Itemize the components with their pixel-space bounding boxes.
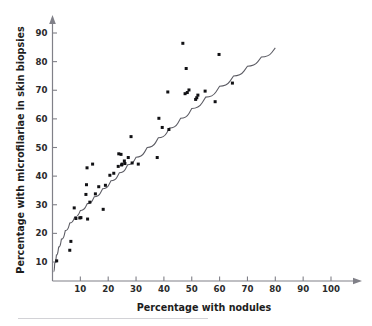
- x-axis-arrow-icon: [353, 278, 362, 285]
- data-point: [86, 166, 89, 169]
- data-point: [120, 153, 123, 156]
- data-point: [73, 206, 76, 209]
- data-point: [185, 67, 188, 70]
- y-tick-label: 50: [36, 143, 48, 153]
- x-tick-label: 40: [158, 284, 170, 294]
- data-point: [121, 163, 124, 166]
- data-point: [94, 192, 97, 195]
- x-tick-label: 30: [130, 284, 142, 294]
- data-point: [102, 208, 105, 211]
- x-tick-label: 50: [186, 284, 198, 294]
- data-point: [88, 201, 91, 204]
- axis-group: [49, 15, 362, 284]
- data-point: [218, 53, 221, 56]
- data-point: [196, 94, 199, 97]
- data-point: [161, 126, 164, 129]
- data-point: [104, 184, 107, 187]
- y-tick-label: 70: [36, 85, 48, 95]
- data-point: [55, 259, 58, 262]
- data-point: [117, 165, 120, 168]
- data-point: [137, 163, 140, 166]
- y-tick-label: 20: [36, 228, 48, 238]
- data-point: [131, 161, 134, 164]
- data-point: [231, 82, 234, 85]
- data-point: [79, 216, 82, 219]
- x-axis-title: Percentage with nodules: [137, 302, 272, 313]
- x-tick-label: 60: [214, 284, 226, 294]
- data-point: [130, 135, 133, 138]
- data-point: [123, 159, 126, 162]
- data-point: [187, 88, 190, 91]
- data-point: [84, 193, 87, 196]
- data-point: [69, 240, 72, 243]
- data-point: [112, 172, 115, 175]
- y-tick-label: 10: [36, 257, 48, 267]
- x-tick-label: 90: [297, 284, 309, 294]
- y-axis-arrow-icon: [49, 15, 56, 24]
- data-point: [181, 42, 184, 45]
- data-point: [195, 96, 198, 99]
- scatter-chart-figure: 102030405060708090100 102030405060708090…: [0, 0, 372, 326]
- data-point: [166, 90, 169, 93]
- data-point: [127, 156, 130, 159]
- data-point: [68, 249, 71, 252]
- data-point: [123, 162, 126, 165]
- x-tick-label: 10: [74, 284, 86, 294]
- data-point: [214, 100, 217, 103]
- data-point: [74, 217, 77, 220]
- data-point: [157, 117, 160, 120]
- y-tick-label: 80: [36, 57, 48, 67]
- y-tick-label: 60: [36, 114, 48, 124]
- x-tick-label: 70: [241, 284, 253, 294]
- data-point: [167, 128, 170, 131]
- chart-svg: 102030405060708090100 102030405060708090…: [0, 0, 372, 326]
- y-axis-title: Percentage with microfilariae in skin bi…: [15, 26, 26, 274]
- x-tick-label: 20: [102, 284, 114, 294]
- fitted-curve: [54, 48, 276, 272]
- data-point: [108, 174, 111, 177]
- data-point: [204, 90, 207, 93]
- data-point: [97, 185, 100, 188]
- data-point: [156, 156, 159, 159]
- y-tick-group: 102030405060708090: [36, 28, 57, 267]
- footer-divider: [18, 318, 208, 319]
- data-point: [91, 163, 94, 166]
- x-tick-label: 80: [269, 284, 281, 294]
- y-tick-label: 30: [36, 200, 48, 210]
- data-point: [86, 218, 89, 221]
- data-point: [85, 183, 88, 186]
- data-point: [186, 91, 189, 94]
- y-tick-label: 90: [36, 28, 48, 38]
- x-tick-label: 100: [322, 284, 340, 294]
- y-tick-label: 40: [36, 171, 48, 181]
- x-tick-group: 102030405060708090100: [74, 277, 340, 295]
